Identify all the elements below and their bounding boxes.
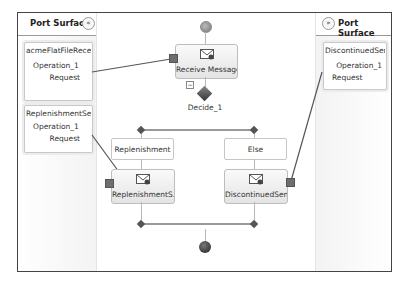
start-shape[interactable] [200, 21, 212, 33]
binding-line-discontinued [291, 72, 322, 181]
replenishment-send-label: ReplenishmentS... [112, 190, 174, 199]
branch-bottom-bar [141, 223, 255, 225]
flow-line [254, 202, 255, 220]
receive-message-label: Receive Message [176, 65, 237, 74]
orchestration-designer: Port Surface « acmeFlatFileRecei... Oper… [17, 12, 392, 272]
replenishment-port-connector[interactable] [105, 179, 114, 188]
envelope-send-icon [136, 174, 150, 185]
replenishment-send-shape[interactable]: ReplenishmentS... [111, 169, 175, 204]
envelope-receive-icon [200, 49, 214, 60]
discontinued-send-shape[interactable]: DiscontinuedSend [224, 169, 288, 204]
branch-label: Replenishment [112, 145, 173, 154]
envelope-send-icon [249, 174, 263, 185]
flow-line [141, 202, 142, 220]
branch-label: Else [225, 145, 286, 154]
decide-collapse-icon[interactable]: − [186, 81, 194, 89]
receive-port-connector[interactable] [169, 54, 178, 63]
flow-line [205, 32, 206, 44]
branch-top-bar [141, 129, 255, 131]
binding-line-receive [92, 58, 177, 72]
flow-line [254, 159, 255, 169]
discontinued-send-label: DiscontinuedSend [225, 190, 287, 199]
receive-message-shape[interactable]: Receive Message [175, 44, 238, 79]
end-shape[interactable] [199, 241, 211, 253]
branch-else[interactable]: Else [224, 138, 287, 160]
flow-line [141, 159, 142, 169]
branch-replenishment[interactable]: Replenishment [111, 138, 174, 160]
decide-label: Decide_1 [180, 103, 230, 112]
discontinued-port-connector[interactable] [286, 178, 295, 187]
